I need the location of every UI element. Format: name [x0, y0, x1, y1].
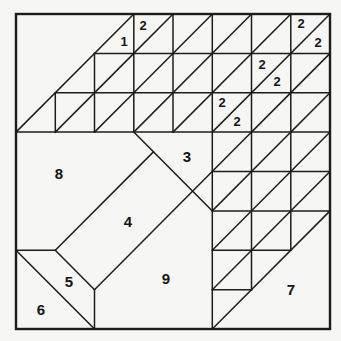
scanned-diagram-page: 122222223456789 — [0, 0, 341, 341]
diagram-line — [212, 132, 330, 250]
region-label-2: 2 — [258, 57, 265, 72]
diagram-line — [55, 152, 153, 250]
region-label-8: 8 — [55, 165, 63, 182]
region-label-2: 2 — [314, 35, 321, 50]
diagram-line — [16, 250, 95, 329]
square-dissection-diagram: 122222223456789 — [0, 0, 341, 341]
region-label-2: 2 — [273, 74, 280, 89]
diagram-line — [55, 250, 94, 289]
diagram-line — [212, 14, 330, 132]
region-label-6: 6 — [37, 301, 45, 318]
region-label-2: 2 — [139, 18, 146, 33]
diagram-line — [95, 93, 134, 132]
region-label-7: 7 — [287, 281, 295, 298]
region-label-4: 4 — [124, 213, 133, 230]
diagram-line — [291, 93, 330, 132]
region-label-1: 1 — [120, 34, 127, 49]
diagram-line — [16, 14, 134, 132]
diagram-line — [134, 132, 213, 211]
region-label-2: 2 — [218, 95, 225, 110]
diagram-line — [212, 172, 330, 290]
region-label-2: 2 — [233, 114, 240, 129]
region-label-9: 9 — [162, 270, 170, 287]
region-label-2: 2 — [297, 16, 304, 31]
diagram-line — [212, 211, 330, 329]
region-label-3: 3 — [183, 148, 191, 165]
region-label-5: 5 — [65, 273, 73, 290]
